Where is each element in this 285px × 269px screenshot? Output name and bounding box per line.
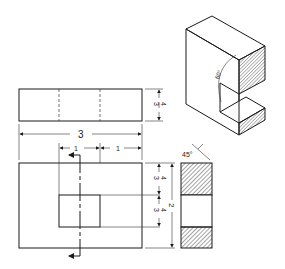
isometric-view: 60° (186, 16, 265, 135)
top-view-height-dimension: 3 4 (145, 89, 167, 121)
front-view (19, 163, 175, 248)
overall-width-dimension: 3 (19, 124, 142, 160)
fraction-denominator: 4 (160, 102, 167, 106)
overall-height-label: 2 (167, 203, 176, 208)
top-view-outline (19, 89, 142, 121)
hatched-section-top (181, 163, 212, 195)
slot-width-dimensions: 1 1 (59, 143, 141, 195)
cutting-plane-line (69, 155, 80, 256)
hatch-angle-label: 45° (182, 151, 193, 158)
front-view-height-dimensions: 3 4 3 4 2 (153, 164, 176, 247)
hatched-section-bottom (181, 227, 212, 248)
upper-dim-denominator: 4 (160, 176, 167, 180)
slot-section (181, 195, 212, 227)
technical-drawing: 3 4 3 1 1 3 4 (0, 0, 285, 269)
lower-dim-denominator: 4 (160, 208, 167, 212)
slot-right-label: 1 (116, 145, 120, 152)
right-side-section-view: 45° (181, 144, 212, 248)
lower-dim-numerator: 3 (153, 208, 160, 212)
upper-dim-numerator: 3 (153, 176, 160, 180)
slot-left-label: 1 (74, 145, 78, 152)
top-view (19, 89, 142, 121)
width-label: 3 (78, 129, 84, 140)
